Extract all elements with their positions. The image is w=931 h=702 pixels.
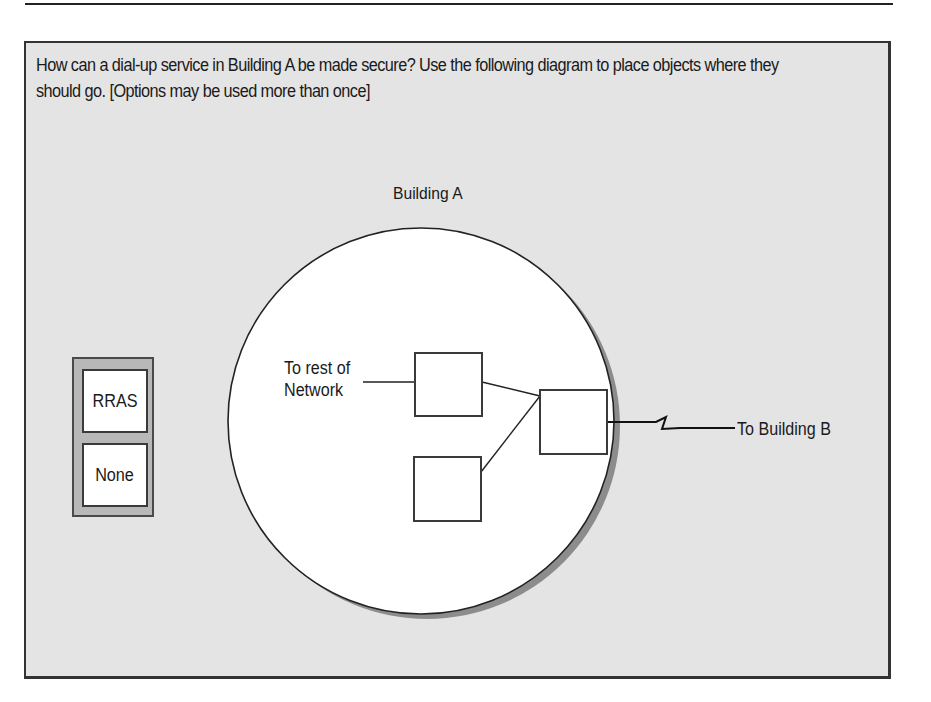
drop-target-right[interactable]	[539, 389, 608, 455]
option-rras-label: RRAS	[92, 391, 137, 412]
to-building-b-label: To Building B	[737, 418, 831, 440]
to-rest-of-network-label: To rest of Network	[284, 357, 350, 401]
options-palette: RRAS None	[72, 357, 154, 517]
network-label-line2: Network	[284, 379, 350, 401]
option-rras[interactable]: RRAS	[82, 369, 148, 433]
wan-link-bolt	[607, 417, 735, 429]
drop-target-lower-left[interactable]	[413, 456, 482, 522]
option-none[interactable]: None	[82, 443, 148, 507]
option-none-label: None	[96, 465, 135, 486]
network-label-line1: To rest of	[284, 357, 350, 379]
network-diagram	[0, 0, 931, 702]
drop-target-upper-left[interactable]	[414, 352, 483, 417]
